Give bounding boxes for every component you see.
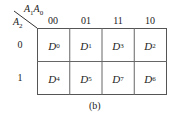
cell-d1: D1 [70,29,102,62]
cell-d7: D7 [102,62,134,95]
col-header-01: 01 [76,15,96,26]
column-variables-label: A1A0 [24,3,43,17]
row-variable-label: A2 [13,16,23,30]
cell-d6: D6 [134,62,166,95]
cell-d2: D2 [134,29,166,62]
col-header-11: 11 [108,15,128,26]
cell-d5: D5 [70,62,102,95]
cell-d4: D4 [38,62,70,95]
cell-d0: D0 [38,29,70,62]
row-header-0: 0 [10,39,30,50]
row-header-1: 1 [10,72,30,83]
cell-d3: D3 [102,29,134,62]
figure-caption: (b) [89,100,101,111]
col-header-00: 00 [43,15,63,26]
col-header-10: 10 [140,15,160,26]
